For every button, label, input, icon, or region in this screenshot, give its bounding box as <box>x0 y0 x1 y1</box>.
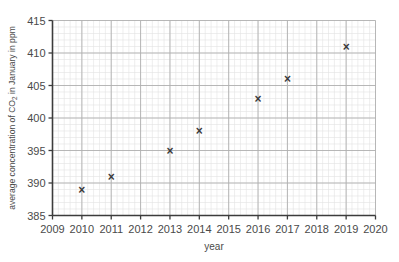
chart-canvas: 3853903954004054104152009201020112012201… <box>0 0 399 262</box>
x-axis-tick-label: 2015 <box>216 223 240 235</box>
data-point-marker: × <box>255 92 262 106</box>
x-axis-tick-label: 2009 <box>40 223 64 235</box>
x-axis-tick-label: 2020 <box>363 223 387 235</box>
data-point-marker: × <box>343 40 350 54</box>
data-point-marker: × <box>108 170 115 184</box>
y-axis-tick-label: 395 <box>27 145 45 157</box>
x-axis-tick-label: 2014 <box>187 223 211 235</box>
data-point-marker: × <box>78 183 85 197</box>
y-axis-tick-label: 405 <box>27 80 45 92</box>
x-axis-tick-label: 2018 <box>305 223 329 235</box>
x-axis-tick-label: 2019 <box>334 223 358 235</box>
x-axis-tick-label: 2011 <box>99 223 123 235</box>
x-axis-title: year <box>204 241 224 252</box>
co2-scatter-chart: 3853903954004054104152009201020112012201… <box>0 0 399 262</box>
y-axis-tick-label: 410 <box>27 47 45 59</box>
y-axis-tick-label: 400 <box>27 112 45 124</box>
x-axis-tick-label: 2013 <box>158 223 182 235</box>
y-axis-title: average concentration of CO2 in January … <box>7 26 18 210</box>
x-axis-tick-label: 2012 <box>128 223 152 235</box>
data-point-marker: × <box>166 144 173 158</box>
x-axis-tick-label: 2017 <box>275 223 299 235</box>
y-axis-tick-label: 385 <box>27 210 45 222</box>
x-axis-tick-label: 2010 <box>70 223 94 235</box>
data-point-marker: × <box>284 72 291 86</box>
x-axis-tick-label: 2016 <box>246 223 270 235</box>
data-point-marker: × <box>196 124 203 138</box>
y-axis-tick-label: 415 <box>27 15 45 27</box>
y-axis-tick-label: 390 <box>27 177 45 189</box>
